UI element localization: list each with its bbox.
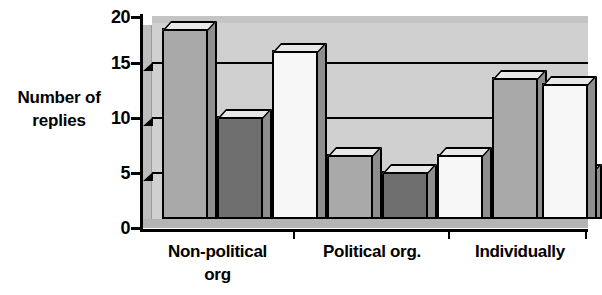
bar-front xyxy=(382,171,428,219)
plot-back-wall-top-band xyxy=(152,16,588,23)
x-category-label-1-line-2: org xyxy=(140,263,295,286)
bar-top xyxy=(437,147,492,157)
bar-top xyxy=(542,76,597,86)
bar-front xyxy=(492,77,538,219)
bar-top xyxy=(492,70,547,80)
gridline-15 xyxy=(152,62,588,64)
bar-top xyxy=(382,164,437,174)
y-tick-mark-5 xyxy=(131,172,140,175)
bar-group3-series3 xyxy=(542,76,588,219)
x-category-label-3-line-1: Individually xyxy=(452,240,588,263)
y-tick-mark-10 xyxy=(131,117,140,120)
y-tick-mark-0 xyxy=(131,227,140,230)
bar-front xyxy=(327,154,373,219)
x-category-label-3: Individually xyxy=(452,240,588,263)
bar-top xyxy=(327,147,382,157)
y-tick-mark-20 xyxy=(131,16,140,19)
y-tick-mark-15 xyxy=(131,62,140,65)
bar-group2-series2 xyxy=(382,164,428,219)
y-axis-line xyxy=(140,14,143,232)
bar-top xyxy=(162,21,217,31)
y-tick-label-20: 20 xyxy=(96,8,130,26)
x-category-label-2: Political org. xyxy=(297,240,447,263)
bar-top xyxy=(217,109,272,119)
y-tick-label-0: 0 xyxy=(96,219,130,237)
bar-group1-series3 xyxy=(272,43,318,219)
bar-group3-series1 xyxy=(492,70,538,219)
bar-front xyxy=(542,83,588,219)
plot-floor xyxy=(143,219,588,228)
x-axis-tick-3 xyxy=(585,232,587,239)
bar-group1-series2 xyxy=(217,109,263,219)
bar-group1-series1 xyxy=(162,21,208,219)
bar-group2-series1 xyxy=(327,147,373,219)
plot-area xyxy=(143,16,588,228)
x-axis-tick-1 xyxy=(293,232,295,239)
x-axis-line xyxy=(140,229,588,232)
y-tick-label-15: 15 xyxy=(96,54,130,72)
x-category-label-2-line-1: Political org. xyxy=(297,240,447,263)
x-category-label-1: Non-political org xyxy=(140,240,295,286)
bar-top xyxy=(272,43,327,53)
bar-group2-series3 xyxy=(437,147,483,219)
y-tick-label-5: 5 xyxy=(96,164,130,182)
x-category-label-1-line-1: Non-political xyxy=(140,240,295,263)
plot-left-wall xyxy=(143,25,152,228)
bar-front xyxy=(272,50,318,219)
bar-front xyxy=(162,28,208,219)
bar-front xyxy=(217,116,263,219)
y-axis-title-line-1: Number of xyxy=(0,86,118,109)
y-tick-label-10: 10 xyxy=(96,109,130,127)
bar-front xyxy=(437,154,483,219)
x-axis-tick-2 xyxy=(448,232,450,239)
